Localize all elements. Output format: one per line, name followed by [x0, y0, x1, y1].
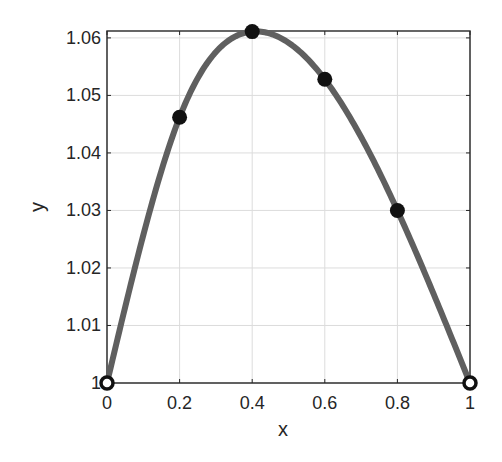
chart-figure: 00.20.40.60.81 11.011.021.031.041.051.06…	[0, 0, 502, 462]
x-tick-label: 0	[102, 393, 112, 413]
y-tick-label: 1.06	[66, 28, 101, 48]
data-point-marker	[172, 110, 187, 125]
x-tick-label: 0.2	[167, 393, 192, 413]
y-tick-label: 1.02	[66, 258, 101, 278]
data-point-marker	[464, 377, 476, 389]
y-axis-label: y	[26, 202, 48, 212]
x-tick-label: 0.4	[240, 393, 265, 413]
x-axis-label: x	[278, 418, 288, 440]
y-tick-label: 1.03	[66, 200, 101, 220]
data-point-marker	[101, 377, 113, 389]
data-point-marker	[317, 72, 332, 87]
data-point-marker	[245, 24, 260, 39]
y-tick-label: 1.05	[66, 85, 101, 105]
data-point-marker	[390, 203, 405, 218]
x-tick-label: 1	[465, 393, 475, 413]
y-tick-label: 1.04	[66, 143, 101, 163]
y-tick-label: 1.01	[66, 315, 101, 335]
x-tick-label: 0.6	[312, 393, 337, 413]
x-tick-label: 0.8	[385, 393, 410, 413]
